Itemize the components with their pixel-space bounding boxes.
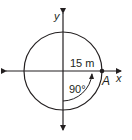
point-a-label: A <box>101 74 110 88</box>
angle-arrowhead-icon <box>89 73 94 79</box>
x-axis-label: x <box>115 72 122 84</box>
point-a <box>100 69 105 74</box>
y-axis-label: y <box>53 10 61 22</box>
angle-label: 90° <box>69 83 86 95</box>
circle-diagram: y x 15 m 90° A <box>0 0 132 140</box>
radius-label: 15 m <box>70 57 94 69</box>
